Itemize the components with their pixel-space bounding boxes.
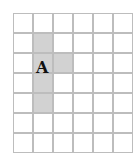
grid-cell — [13, 53, 33, 73]
grid-cell — [93, 133, 113, 153]
grid-cell — [13, 133, 33, 153]
grid-cell — [73, 33, 93, 53]
grid-cell — [73, 113, 93, 133]
grid-cell — [93, 53, 113, 73]
grid-cell — [13, 73, 33, 93]
grid-cell — [113, 33, 133, 53]
grid-cell — [53, 113, 73, 133]
grid-cell — [113, 53, 133, 73]
grid-cell — [73, 93, 93, 113]
grid-cell — [113, 113, 133, 133]
grid-cell — [93, 113, 113, 133]
grid-cell — [93, 73, 113, 93]
grid-cell — [73, 13, 93, 33]
grid-cell — [53, 133, 73, 153]
grid-cell — [73, 133, 93, 153]
grid-cell — [13, 13, 33, 33]
grid-cell — [33, 133, 53, 153]
grid-cell — [33, 113, 53, 133]
grid-cell — [53, 13, 73, 33]
grid-cell — [113, 13, 133, 33]
grid-cell — [113, 73, 133, 93]
grid-cell — [93, 13, 113, 33]
grid-cell — [113, 93, 133, 113]
grid-cell — [33, 13, 53, 33]
grid-cell — [13, 113, 33, 133]
grid-cell — [93, 33, 113, 53]
grid-cell — [73, 53, 93, 73]
grid-cell — [93, 93, 113, 113]
shape-label: A — [36, 58, 48, 77]
grid-cell — [53, 53, 73, 73]
grid-cell — [33, 93, 53, 113]
grid-cell — [73, 73, 93, 93]
grid-cell — [33, 33, 53, 53]
grid-cell — [53, 33, 73, 53]
grid-cell — [113, 133, 133, 153]
grid-cell — [53, 93, 73, 113]
grid-cell — [13, 33, 33, 53]
grid-cell — [13, 93, 33, 113]
grid-cell — [53, 73, 73, 93]
